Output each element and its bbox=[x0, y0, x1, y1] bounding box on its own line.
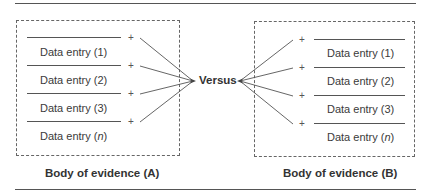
arrowhead-icon bbox=[237, 79, 243, 84]
arrowhead-icon bbox=[190, 79, 196, 84]
connector-lines bbox=[0, 0, 429, 196]
versus-label: Versus bbox=[199, 74, 237, 86]
